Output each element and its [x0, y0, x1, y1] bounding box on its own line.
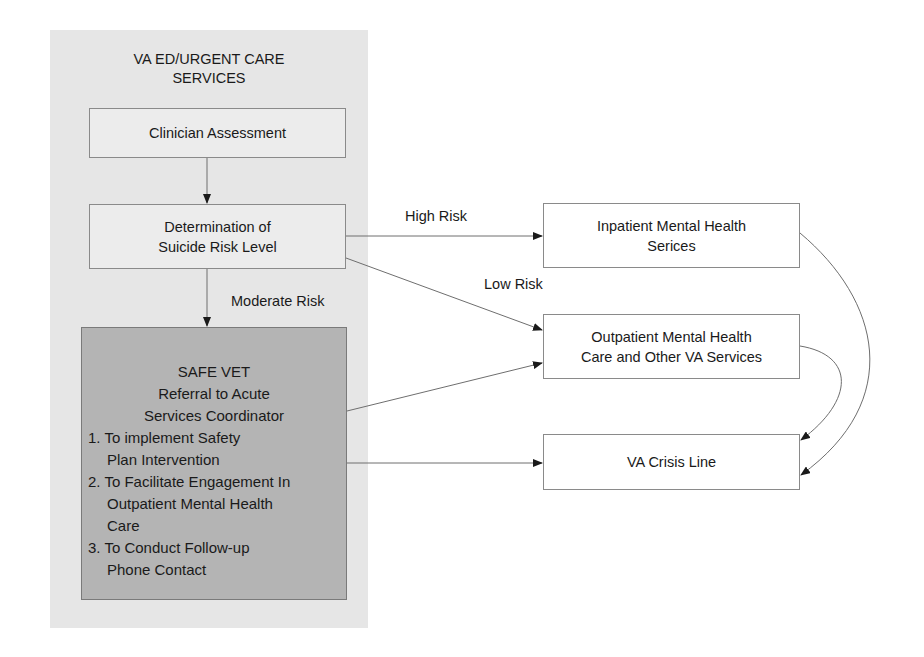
- node-inpatient-line2: Serices: [647, 236, 695, 256]
- task-text-cont: Care: [88, 515, 346, 537]
- safe-vet-line2: Referral to Acute: [82, 383, 346, 405]
- node-clinician-assessment-label: Clinician Assessment: [149, 123, 286, 143]
- node-outpatient: Outpatient Mental Health Care and Other …: [543, 314, 800, 379]
- node-outpatient-line2: Care and Other VA Services: [581, 347, 762, 367]
- edge-inpatient-to-crisis-line: [800, 233, 870, 475]
- node-outpatient-line1: Outpatient Mental Health: [591, 327, 751, 347]
- node-crisis-line-label: VA Crisis Line: [627, 452, 716, 472]
- node-determination: Determination of Suicide Risk Level: [89, 204, 346, 269]
- edge-outpatient-to-crisis-line: [800, 346, 841, 440]
- safe-vet-task-list: 1. To implement Safety Plan Intervention…: [82, 427, 346, 581]
- node-determination-line2: Suicide Risk Level: [158, 237, 276, 257]
- task-text-cont: Plan Intervention: [88, 449, 346, 471]
- edge-label-moderate-risk: Moderate Risk: [231, 292, 324, 310]
- edge-low-risk: [346, 258, 542, 330]
- safe-vet-task-3: 3. To Conduct Follow-up Phone Contact: [88, 537, 346, 581]
- task-number: 2.: [88, 473, 101, 490]
- task-text-cont: Phone Contact: [88, 559, 346, 581]
- edge-label-high-risk: High Risk: [405, 207, 467, 225]
- safe-vet-task-2: 2. To Facilitate Engagement In Outpatien…: [88, 471, 346, 537]
- node-crisis-line: VA Crisis Line: [543, 434, 800, 490]
- safe-vet-line3: Services Coordinator: [82, 405, 346, 427]
- task-text: To Facilitate Engagement In: [104, 473, 290, 490]
- panel-title-line2: SERVICES: [50, 69, 368, 88]
- node-determination-line1: Determination of: [164, 217, 270, 237]
- node-inpatient: Inpatient Mental Health Serices: [543, 203, 800, 268]
- panel-title: VA ED/URGENT CARE SERVICES: [50, 50, 368, 88]
- task-text: To Conduct Follow-up: [104, 539, 249, 556]
- safe-vet-line1: SAFE VET: [82, 361, 346, 383]
- node-inpatient-line1: Inpatient Mental Health: [597, 216, 746, 236]
- panel-title-line1: VA ED/URGENT CARE: [50, 50, 368, 69]
- node-clinician-assessment: Clinician Assessment: [89, 108, 346, 158]
- node-safe-vet: SAFE VET Referral to Acute Services Coor…: [81, 327, 347, 600]
- safe-vet-task-1: 1. To implement Safety Plan Intervention: [88, 427, 346, 471]
- edge-safe-vet-to-outpatient: [347, 363, 542, 411]
- safe-vet-heading: SAFE VET Referral to Acute Services Coor…: [82, 361, 346, 427]
- task-text: To implement Safety: [104, 429, 240, 446]
- task-number: 3.: [88, 539, 101, 556]
- edge-label-low-risk: Low Risk: [484, 275, 543, 293]
- task-number: 1.: [88, 429, 101, 446]
- task-text-cont: Outpatient Mental Health: [88, 493, 346, 515]
